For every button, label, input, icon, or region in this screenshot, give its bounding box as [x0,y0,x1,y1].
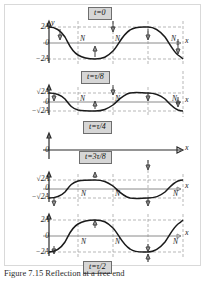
node-marker: N [81,190,86,198]
x-axis-label: x [185,182,189,190]
x-axis-label: x [185,96,189,104]
node-marker: N [173,238,178,246]
node-marker: N [115,35,120,43]
panel-t-tau-8: √2A 0 −√2A x N N N t=τ/8 [5,71,200,119]
panel-t0: 2A 0 −2A y x N N N t=0 [5,5,200,71]
node-marker: N [115,95,120,103]
node-marker: N [173,190,178,198]
node-marker: N [115,190,120,198]
node-marker: N [80,95,85,103]
figure-caption: Figure 7.15 Reflection at a free end [4,268,201,278]
standing-wave-figure: 2A 0 −2A y x N N N t=0 √2A [4,4,201,266]
time-label-t-tau-4: t=τ/4 [83,121,112,134]
tick-label-top: 2A [29,216,49,224]
tick-label-zero: 0 [29,146,49,154]
tick-label-zero: 0 [21,184,49,192]
tick-label-bottom: −√2A [17,193,49,201]
tick-label-zero: 0 [29,232,49,240]
x-axis-label: x [185,144,189,152]
panel-t-3tau-8: √2A 0 −√2A x N N N t=3τ/8 [5,160,200,210]
tick-label-top: √2A [23,88,49,96]
panel-t-tau-2: 2A 0 −2A x N N N t=τ/2 [5,208,200,268]
node-marker: N [172,95,177,103]
node-marker: N [115,238,120,246]
time-label-t-3tau-8: t=3τ/8 [79,151,112,164]
node-marker: N [171,35,176,43]
y-axis-label: y [51,19,55,27]
tick-label-zero: 0 [23,98,49,106]
x-axis-label: x [185,37,189,45]
time-label-t0: t=0 [88,7,112,20]
tick-label-top: 2A [29,23,49,31]
tick-label-zero: 0 [29,39,49,47]
time-label-t-tau-8: t=τ/8 [81,71,110,84]
tick-label-bottom: −2A [25,248,49,256]
tick-label-top: √2A [21,175,49,183]
tick-label-bottom: −2A [25,55,49,63]
node-marker: N [81,238,86,246]
node-marker: N [80,35,85,43]
tick-label-bottom: −√2A [19,107,49,115]
x-axis-label: x [185,229,189,237]
